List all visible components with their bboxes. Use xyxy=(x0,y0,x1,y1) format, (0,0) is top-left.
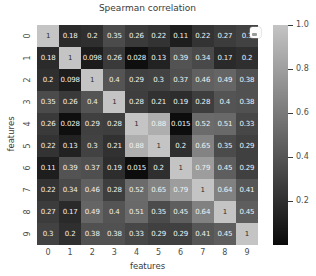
heatmap-cell-4-6: 0.015 xyxy=(170,113,192,135)
heatmap-cell-6-6: 1 xyxy=(170,157,192,179)
heatmap-cell-1-4: 0.028 xyxy=(125,47,147,69)
mouse-cursor-icon xyxy=(250,27,261,38)
heatmap-cell-9-6: 0.29 xyxy=(170,223,192,245)
heatmap-cell-3-1: 0.26 xyxy=(59,91,81,113)
heatmap-cell-0-7: 0.22 xyxy=(192,25,214,47)
heatmap-cell-5-5: 1 xyxy=(148,135,170,157)
heatmap-cell-3-0: 0.35 xyxy=(37,91,59,113)
heatmap-cell-6-0: 0.11 xyxy=(37,157,59,179)
y-tick-label-4: 4 xyxy=(23,113,33,135)
colorbar-tick-mark-0.8 xyxy=(288,69,293,70)
heatmap-cell-1-9: 0.2 xyxy=(236,47,258,69)
heatmap-cell-4-3: 0.28 xyxy=(103,113,125,135)
colorbar-tick-label-0.4: 0.4 xyxy=(296,152,309,162)
heatmap-cell-0-5: 0.22 xyxy=(148,25,170,47)
heatmap-cell-8-5: 0.35 xyxy=(148,201,170,223)
heatmap-cell-5-8: 0.35 xyxy=(214,135,236,157)
heatmap-cell-8-3: 0.4 xyxy=(103,201,125,223)
colorbar-tick-label-0.8: 0.8 xyxy=(296,64,309,74)
heatmap-cell-9-9: 1 xyxy=(236,223,258,245)
x-tick-label-0: 0 xyxy=(37,248,59,258)
heatmap-cell-7-0: 0.22 xyxy=(37,179,59,201)
heatmap-cell-0-4: 0.26 xyxy=(125,25,147,47)
heatmap-cell-6-7: 0.79 xyxy=(192,157,214,179)
heatmap-cell-2-9: 0.38 xyxy=(236,69,258,91)
y-tick-label-2: 2 xyxy=(23,69,33,91)
heatmap-cell-3-3: 1 xyxy=(103,91,125,113)
x-tick-label-8: 8 xyxy=(214,248,236,258)
mouse-cursor-detail xyxy=(252,33,257,36)
y-axis-label: features xyxy=(5,24,15,245)
heatmap-cell-2-0: 0.2 xyxy=(37,69,59,91)
colorbar-tick-label-1.0: 1.0 xyxy=(296,20,309,30)
heatmap-cell-6-5: 0.2 xyxy=(148,157,170,179)
y-tick-label-9: 9 xyxy=(23,223,33,245)
heatmap-cell-6-1: 0.39 xyxy=(59,157,81,179)
heatmap-cell-7-9: 0.41 xyxy=(236,179,258,201)
heatmap-cell-9-7: 0.41 xyxy=(192,223,214,245)
heatmap-cell-5-9: 0.29 xyxy=(236,135,258,157)
y-tick-label-7: 7 xyxy=(23,179,33,201)
heatmap-grid: 10.180.20.350.260.220.110.220.270.30.181… xyxy=(37,25,258,245)
x-tick-label-1: 1 xyxy=(59,248,81,258)
heatmap-cell-5-2: 0.3 xyxy=(81,135,103,157)
heatmap-cell-4-9: 0.33 xyxy=(236,113,258,135)
heatmap-cell-4-8: 0.51 xyxy=(214,113,236,135)
heatmap-cell-3-9: 0.38 xyxy=(236,91,258,113)
heatmap-cell-3-7: 0.28 xyxy=(192,91,214,113)
heatmap-cell-5-0: 0.22 xyxy=(37,135,59,157)
x-tick-label-9: 9 xyxy=(236,248,258,258)
heatmap-cell-0-1: 0.18 xyxy=(59,25,81,47)
heatmap-cell-4-7: 0.52 xyxy=(192,113,214,135)
y-tick-label-0: 0 xyxy=(23,25,33,47)
colorbar-tick-label-0.6: 0.6 xyxy=(296,108,309,118)
heatmap-cell-6-8: 0.45 xyxy=(214,157,236,179)
heatmap-cell-4-1: 0.028 xyxy=(59,113,81,135)
y-tick-label-3: 3 xyxy=(23,91,33,113)
heatmap-cell-7-5: 0.65 xyxy=(148,179,170,201)
heatmap-cell-2-5: 0.3 xyxy=(148,69,170,91)
x-tick-label-3: 3 xyxy=(103,248,125,258)
heatmap-cell-5-6: 0.2 xyxy=(170,135,192,157)
heatmap-cell-8-4: 0.51 xyxy=(125,201,147,223)
heatmap-cell-6-9: 0.29 xyxy=(236,157,258,179)
heatmap-cell-2-1: 0.098 xyxy=(59,69,81,91)
colorbar-tick-mark-0.2 xyxy=(288,201,293,202)
heatmap-cell-9-0: 0.3 xyxy=(37,223,59,245)
colorbar-tick-mark-0.6 xyxy=(288,113,293,114)
heatmap-cell-8-7: 0.64 xyxy=(192,201,214,223)
heatmap-cell-7-1: 0.34 xyxy=(59,179,81,201)
x-tick-label-6: 6 xyxy=(170,248,192,258)
heatmap-cell-1-7: 0.34 xyxy=(192,47,214,69)
heatmap-cell-3-8: 0.4 xyxy=(214,91,236,113)
heatmap-cell-4-4: 1 xyxy=(125,113,147,135)
heatmap-cell-1-0: 0.18 xyxy=(37,47,59,69)
heatmap-cell-8-0: 0.27 xyxy=(37,201,59,223)
heatmap-cell-0-3: 0.35 xyxy=(103,25,125,47)
heatmap-cell-3-4: 0.28 xyxy=(125,91,147,113)
heatmap-cell-3-2: 0.4 xyxy=(81,91,103,113)
x-tick-label-2: 2 xyxy=(81,248,103,258)
colorbar-tick-label-0.2: 0.2 xyxy=(296,196,309,206)
heatmap-cell-6-2: 0.37 xyxy=(81,157,103,179)
heatmap-cell-3-5: 0.21 xyxy=(148,91,170,113)
heatmap-cell-2-7: 0.46 xyxy=(192,69,214,91)
heatmap-cell-2-3: 0.4 xyxy=(103,69,125,91)
heatmap-cell-8-6: 0.45 xyxy=(170,201,192,223)
heatmap-cell-9-4: 0.33 xyxy=(125,223,147,245)
heatmap-cell-7-3: 0.28 xyxy=(103,179,125,201)
heatmap-cell-2-8: 0.49 xyxy=(214,69,236,91)
x-tick-label-7: 7 xyxy=(192,248,214,258)
chart-title: Spearman correlation xyxy=(37,3,258,13)
x-tick-label-4: 4 xyxy=(125,248,147,258)
heatmap-cell-7-7: 1 xyxy=(192,179,214,201)
heatmap-cell-7-6: 0.79 xyxy=(170,179,192,201)
x-tick-label-5: 5 xyxy=(148,248,170,258)
heatmap-cell-1-3: 0.26 xyxy=(103,47,125,69)
heatmap-cell-7-4: 0.52 xyxy=(125,179,147,201)
heatmap-cell-1-6: 0.39 xyxy=(170,47,192,69)
heatmap-cell-0-8: 0.27 xyxy=(214,25,236,47)
heatmap-cell-1-2: 0.098 xyxy=(81,47,103,69)
heatmap-cell-5-4: 0.88 xyxy=(125,135,147,157)
heatmap-cell-7-8: 0.64 xyxy=(214,179,236,201)
